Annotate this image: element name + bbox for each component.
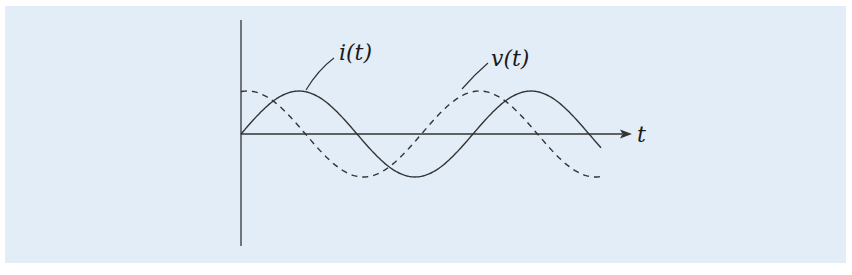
current-leader-line (306, 58, 334, 90)
current-label: i(t) (339, 40, 372, 65)
voltage-label: v(t) (491, 46, 529, 71)
time-axis-label: t (637, 122, 646, 147)
voltage-leader-line (462, 63, 488, 89)
phasor-waveform-diagram: t i(t) v(t) (0, 0, 852, 275)
